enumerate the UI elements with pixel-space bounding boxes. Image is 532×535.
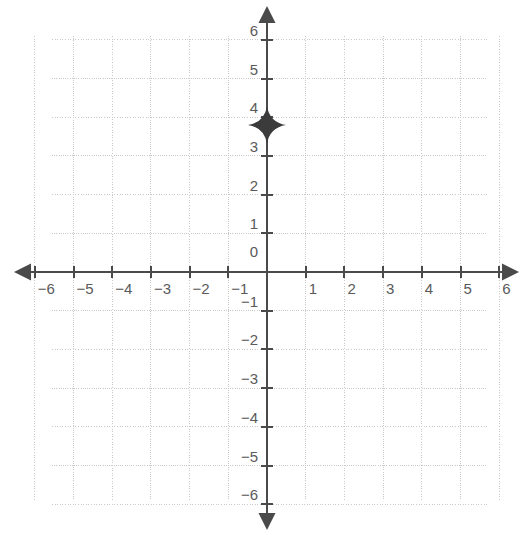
x-axis-arrow-right — [502, 264, 519, 281]
x-tick-label-4: 4 — [425, 281, 433, 296]
origin-label: 0 — [250, 244, 258, 259]
coordinate-plane: −6−5−4−3−2−1123456−6−5−4−3−2−11234560 — [0, 0, 532, 535]
x-tick-label-2: 2 — [347, 281, 355, 296]
y-tick-label-neg2: −2 — [241, 332, 258, 347]
x-tick-label-neg2: −2 — [193, 281, 210, 296]
y-tick-label-5: 5 — [250, 62, 258, 77]
y-tick-label-6: 6 — [250, 23, 258, 38]
x-axis-arrow-left — [14, 264, 31, 281]
x-tick-label-neg4: −4 — [115, 281, 132, 296]
y-tick-label-2: 2 — [250, 178, 258, 193]
y-tick-label-neg4: −4 — [241, 410, 258, 425]
y-axis-arrow-down — [259, 513, 276, 530]
x-tick-label-5: 5 — [464, 281, 472, 296]
axes — [14, 6, 519, 530]
x-tick-label-neg5: −5 — [77, 281, 94, 296]
x-tick-label-1: 1 — [309, 281, 317, 296]
graph-canvas — [0, 0, 532, 535]
y-tick-label-neg6: −6 — [241, 487, 258, 502]
y-tick-label-1: 1 — [250, 216, 258, 231]
x-tick-label-3: 3 — [386, 281, 394, 296]
y-tick-label-neg3: −3 — [241, 371, 258, 386]
y-axis-arrow-up — [259, 6, 276, 23]
x-tick-label-neg6: −6 — [38, 281, 55, 296]
y-tick-label-4: 4 — [250, 100, 258, 115]
y-tick-label-3: 3 — [250, 139, 258, 154]
x-tick-label-6: 6 — [502, 281, 510, 296]
y-tick-label-neg1: −1 — [241, 294, 258, 309]
x-tick-label-neg3: −3 — [154, 281, 171, 296]
y-tick-label-neg5: −5 — [241, 449, 258, 464]
